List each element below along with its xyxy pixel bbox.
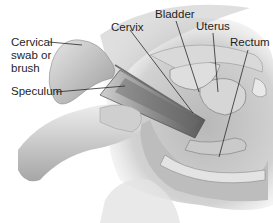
leader-uterus: [213, 33, 218, 92]
leader-cervix: [130, 30, 193, 113]
label-cervical-swab-line3: brush: [11, 62, 53, 75]
label-cervix: Cervix: [111, 21, 144, 34]
label-bladder: Bladder: [155, 8, 195, 21]
label-cervical-swab: Cervical swab or brush: [11, 36, 53, 75]
leader-speculum: [56, 86, 125, 92]
label-speculum: Speculum: [11, 85, 62, 98]
leader-rectum: [219, 50, 248, 157]
label-cervical-swab-line1: Cervical: [11, 36, 53, 49]
label-uterus: Uterus: [196, 20, 230, 33]
label-cervical-swab-line2: swab or: [11, 49, 53, 62]
leader-cervical-swab: [49, 42, 82, 45]
pelvic-exam-diagram: Cervical swab or brush Speculum Cervix B…: [0, 0, 273, 223]
label-rectum: Rectum: [230, 36, 270, 49]
